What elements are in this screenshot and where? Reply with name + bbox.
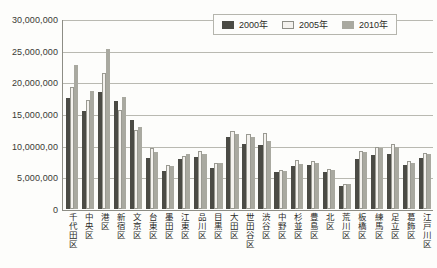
bar-group	[401, 20, 417, 209]
chart-legend: 2000年2005年2010年	[213, 14, 397, 35]
bar-chart: 30,000,00025,000,00020,000,00015,000,000…	[0, 0, 437, 268]
x-axis-tick-label: 荒川区	[337, 213, 353, 268]
bar	[283, 171, 287, 209]
bar	[267, 141, 271, 209]
bar-group	[241, 20, 257, 209]
x-axis-tick-label: 新宿区	[111, 213, 127, 268]
bar-group	[337, 20, 353, 209]
x-axis-tick-label: 文京区	[127, 213, 143, 268]
bar	[74, 65, 78, 209]
bar	[427, 154, 431, 209]
bar-group	[321, 20, 337, 209]
legend-label: 2010年	[359, 18, 388, 31]
x-axis-tick-text: 中央区	[82, 213, 91, 268]
x-axis-tick-text: 目黒区	[211, 213, 220, 268]
bar-group	[80, 20, 96, 209]
x-axis-tick-label: 目黒区	[208, 213, 224, 268]
bar	[218, 163, 222, 209]
bar-group	[112, 20, 128, 209]
bar-group	[369, 20, 385, 209]
bar	[347, 184, 351, 209]
x-axis-tick-text: 練馬区	[372, 213, 381, 268]
bar	[395, 147, 399, 209]
x-axis-tick-text: 中野区	[276, 213, 285, 268]
x-axis-tick-text: 江戸川区	[420, 213, 429, 268]
x-axis-tick-text: 板橋区	[356, 213, 365, 268]
y-axis-tick-label: 20,000,000	[12, 78, 58, 88]
bar-group	[305, 20, 321, 209]
legend-swatch-icon	[282, 21, 294, 29]
x-axis-tick-label: 港区	[95, 213, 111, 268]
x-axis-tick-text: 墨田区	[163, 213, 172, 268]
bar	[106, 49, 110, 209]
bar	[379, 148, 383, 209]
bar	[202, 154, 206, 209]
x-axis-tick-label: 台東区	[143, 213, 159, 268]
bar-group	[224, 20, 240, 209]
bar	[90, 91, 94, 209]
bar	[122, 97, 126, 209]
bar	[138, 127, 142, 209]
x-axis-tick-label: 渋谷区	[256, 213, 272, 268]
y-axis-tick-label: 25,000,000	[12, 47, 58, 57]
y-axis: 30,000,00025,000,00020,000,00015,000,000…	[0, 0, 62, 268]
x-axis-tick-label: 墨田区	[160, 213, 176, 268]
x-axis-tick-text: 新宿区	[115, 213, 124, 268]
x-axis-tick-label: 江戸川区	[417, 213, 433, 268]
bar	[251, 137, 255, 209]
x-axis-tick-label: 豊島区	[304, 213, 320, 268]
y-axis-tick-label: 15,000,000	[12, 110, 58, 120]
x-axis-tick-label: 中央区	[79, 213, 95, 268]
legend-item: 2000年	[222, 18, 268, 31]
bar-group	[176, 20, 192, 209]
x-axis-tick-text: 世田谷区	[243, 213, 252, 268]
x-axis-tick-text: 足立区	[388, 213, 397, 268]
bar-group	[273, 20, 289, 209]
bar-group	[96, 20, 112, 209]
x-axis-tick-label: 杉並区	[288, 213, 304, 268]
bar	[331, 170, 335, 209]
bar-group	[417, 20, 433, 209]
y-axis-tick-label: 0	[53, 205, 58, 215]
bar	[315, 163, 319, 209]
x-axis-tick-label: 中野区	[272, 213, 288, 268]
bar	[363, 152, 367, 209]
y-axis-tick-label: 10,0000,00	[12, 142, 58, 152]
x-axis-tick-text: 大田区	[227, 213, 236, 268]
x-axis-tick-text: 港区	[99, 213, 108, 268]
bar-group	[208, 20, 224, 209]
bar-group	[385, 20, 401, 209]
y-axis-tick-label: 5,000,000	[17, 173, 58, 183]
bar	[299, 164, 303, 209]
bar	[154, 152, 158, 209]
bar	[411, 163, 415, 209]
x-axis-tick-label: 千代田区	[63, 213, 79, 268]
bar-group	[128, 20, 144, 209]
x-axis-tick-label: 品川区	[192, 213, 208, 268]
bar-group	[144, 20, 160, 209]
x-axis-tick-text: 江東区	[179, 213, 188, 268]
bar-group	[192, 20, 208, 209]
x-axis-tick-text: 杉並区	[292, 213, 301, 268]
bar-group	[353, 20, 369, 209]
bar	[186, 154, 190, 209]
x-axis-tick-label: 北区	[321, 213, 337, 268]
legend-item: 2010年	[342, 18, 388, 31]
x-axis-tick-label: 大田区	[224, 213, 240, 268]
x-axis: 千代田区中央区港区新宿区文京区台東区墨田区江東区品川区目黒区大田区世田谷区渋谷区…	[63, 213, 433, 268]
x-axis-tick-label: 江東区	[176, 213, 192, 268]
legend-label: 2005年	[299, 18, 328, 31]
x-axis-tick-label: 足立区	[385, 213, 401, 268]
x-axis-tick-text: 葛飾区	[404, 213, 413, 268]
bar	[235, 134, 239, 209]
legend-label: 2000年	[239, 18, 268, 31]
x-axis-tick-text: 荒川区	[340, 213, 349, 268]
y-axis-tick-label: 30,000,000	[12, 15, 58, 25]
bar-group	[64, 20, 80, 209]
bars-layer	[64, 20, 433, 209]
x-axis-tick-label: 葛飾区	[401, 213, 417, 268]
x-axis-tick-label: 世田谷区	[240, 213, 256, 268]
x-axis-tick-text: 千代田区	[66, 213, 75, 268]
x-axis-tick-text: 渋谷区	[259, 213, 268, 268]
legend-item: 2005年	[282, 18, 328, 31]
